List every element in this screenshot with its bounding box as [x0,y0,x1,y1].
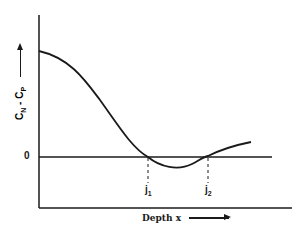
y-axis-arrow-icon [20,45,22,77]
j1-label: j1 [145,184,152,197]
y-c1: C [14,113,25,120]
x-axis-arrow-icon [189,217,229,219]
y-sep: - C [14,92,25,108]
x-axis-label: Depth x [142,213,229,223]
j2-sub: 2 [208,190,212,197]
j2-label: j2 [205,184,212,197]
y-tick-zero: 0 [24,150,30,161]
y-sub-p: P [20,87,27,92]
curve-cn-cp [39,51,251,168]
y-sub-n: N [20,108,27,113]
y-axis-label-text: CN - CP [14,87,27,120]
chart-canvas [0,0,304,237]
j1-sub: 1 [148,190,152,197]
y-axis-label: CN - CP [14,45,27,120]
x-axis-label-text: Depth x [142,213,181,223]
